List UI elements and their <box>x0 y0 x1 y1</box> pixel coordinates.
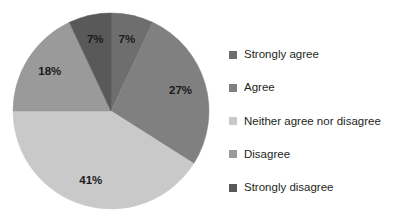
legend: Strongly agreeAgreeNeither agree nor dis… <box>229 47 405 195</box>
pie-plot-area: 7%27%41%18%7% <box>0 0 223 223</box>
pie-chart-figure: 7%27%41%18%7% Strongly agreeAgreeNeither… <box>0 0 405 223</box>
pie-slice-value-label: 18% <box>38 65 61 77</box>
legend-item[interactable]: Disagree <box>229 147 405 162</box>
legend-swatch-icon <box>229 150 237 158</box>
legend-item-label: Strongly disagree <box>244 181 334 194</box>
legend-item[interactable]: Neither agree nor disagree <box>229 114 405 129</box>
legend-swatch-icon <box>229 84 237 92</box>
pie-slice-value-label: 27% <box>169 84 192 96</box>
legend-swatch-icon <box>229 51 237 59</box>
legend-item-label: Strongly agree <box>244 48 319 61</box>
pie-slice-value-label: 7% <box>118 33 135 45</box>
legend-item[interactable]: Agree <box>229 80 405 95</box>
legend-item[interactable]: Strongly disagree <box>229 180 405 195</box>
legend-swatch-icon <box>229 117 237 125</box>
legend-item-label: Disagree <box>244 148 290 161</box>
legend-item-label: Neither agree nor disagree <box>244 115 381 128</box>
pie-svg: 7%27%41%18%7% <box>0 0 223 223</box>
legend-swatch-icon <box>229 184 237 192</box>
pie-slice-value-label: 41% <box>79 174 102 186</box>
pie-slice-value-label: 7% <box>87 33 104 45</box>
legend-item[interactable]: Strongly agree <box>229 47 405 62</box>
legend-item-label: Agree <box>244 81 275 94</box>
pie-slice-group <box>13 13 209 209</box>
